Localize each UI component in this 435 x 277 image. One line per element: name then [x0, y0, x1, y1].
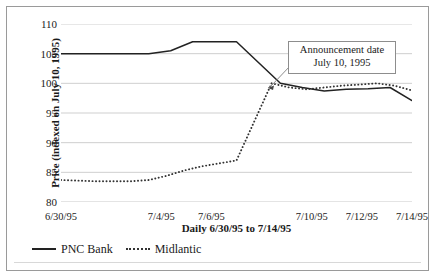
x-axis-tick-label: 6/30/95 — [45, 211, 77, 222]
legend-label: PNC Bank — [61, 243, 113, 255]
y-axis-tick-label: 105 — [41, 48, 58, 60]
chart-legend: PNC BankMidlantic — [32, 240, 412, 258]
chart-figure: Price (indexed on July 10, 1995) 8085909… — [0, 0, 435, 277]
x-axis-tick-label: 7/14/95 — [396, 211, 428, 222]
x-axis-tick-label: 7/4/95 — [148, 211, 175, 222]
legend-divider — [14, 262, 421, 263]
legend-entry-midlantic[interactable]: Midlantic — [126, 243, 202, 255]
annotation-line-2: July 10, 1995 — [292, 57, 392, 70]
y-axis-tick-label: 110 — [41, 18, 57, 30]
legend-swatch-dotted-icon — [126, 248, 150, 250]
y-axis-tick-label: 95 — [46, 107, 57, 119]
announcement-annotation: Announcement date July 10, 1995 — [288, 41, 396, 74]
legend-entry-pnc-bank[interactable]: PNC Bank — [32, 243, 113, 255]
x-axis-tick-labels: 6/30/957/4/957/6/957/10/957/12/957/14/95 — [61, 206, 412, 222]
legend-swatch-solid-icon — [32, 248, 56, 250]
y-axis-tick-label: 80 — [46, 196, 57, 208]
legend-label: Midlantic — [155, 243, 202, 255]
y-axis-tick-label: 85 — [46, 166, 57, 178]
y-axis-tick-labels: 80859095100105110 — [20, 24, 57, 202]
x-axis-tick-label: 7/10/95 — [296, 211, 328, 222]
annotation-line-1: Announcement date — [300, 44, 384, 55]
y-axis-tick-label: 100 — [41, 77, 58, 89]
series-line-midlantic — [61, 83, 412, 181]
x-axis-tick-label: 7/6/95 — [198, 211, 225, 222]
x-axis-title: Daily 6/30/95 to 7/14/95 — [61, 222, 412, 234]
x-axis-tick-label: 7/12/95 — [346, 211, 378, 222]
y-axis-tick-label: 90 — [46, 137, 57, 149]
